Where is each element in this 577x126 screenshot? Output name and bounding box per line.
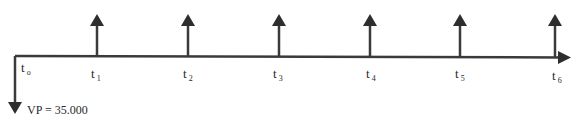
inflow-arrow-6	[548, 14, 562, 58]
up-arrow-icon	[272, 14, 286, 26]
up-arrow-icon	[90, 14, 104, 26]
axis-arrow-head-icon	[558, 51, 571, 64]
up-arrow-icon	[181, 14, 195, 26]
period-label-t4: t4	[366, 66, 376, 83]
period-label-t0: to	[21, 60, 31, 77]
inflow-arrow-3	[272, 14, 286, 57]
inflow-arrow-2	[181, 14, 195, 56]
inflow-arrow-1	[90, 14, 104, 56]
period-label-t1: t1	[91, 66, 101, 83]
period-label-t3: t3	[273, 66, 283, 83]
present-value-label: VP = 35.000	[27, 103, 88, 118]
up-arrow-icon	[453, 14, 467, 26]
up-arrow-icon	[548, 14, 562, 26]
period-label-t6: t6	[552, 68, 562, 85]
up-arrow-icon	[363, 14, 377, 26]
period-label-t2: t2	[183, 66, 193, 83]
timeline-axis	[15, 56, 563, 58]
inflow-arrow-5	[453, 14, 467, 57]
inflow-arrow-4	[363, 14, 377, 57]
period-label-t5: t5	[455, 66, 465, 83]
outflow-arrow-head-icon	[8, 102, 22, 114]
